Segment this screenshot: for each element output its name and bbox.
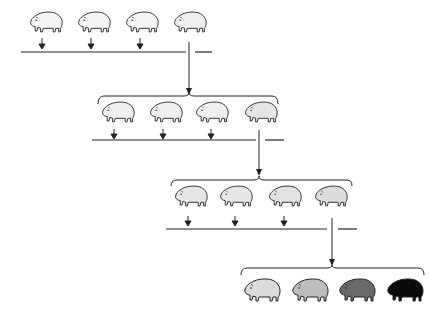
hog-icon-selected — [246, 102, 278, 122]
generation-1 — [21, 12, 212, 95]
hog-icon — [127, 12, 159, 32]
generation-3 — [166, 186, 357, 266]
hog-icon — [245, 279, 280, 301]
hog-icon — [293, 279, 328, 301]
offspring-arrows — [111, 129, 214, 139]
hog-icon — [151, 102, 183, 122]
group-brace — [171, 176, 352, 186]
hog-icon — [340, 279, 375, 301]
hog-icon — [31, 12, 63, 32]
offspring-arrows — [185, 216, 287, 226]
hog-icon — [79, 12, 111, 32]
hog-icon — [197, 102, 229, 122]
hog-icon-selected — [175, 12, 207, 32]
hog-icon — [103, 102, 135, 122]
generation-4 — [245, 279, 423, 301]
group-brace — [241, 265, 424, 275]
generation-2 — [92, 102, 284, 176]
hog-icon — [221, 186, 253, 206]
hog-icon — [270, 186, 302, 206]
hog-icon — [176, 186, 208, 206]
hog-icon-selected — [316, 186, 348, 206]
selection-diagram — [0, 0, 448, 320]
hog-icon-black — [388, 279, 423, 301]
offspring-arrows — [39, 38, 143, 49]
